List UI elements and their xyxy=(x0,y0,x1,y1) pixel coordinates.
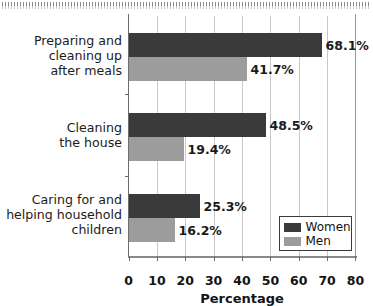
bar-women-cleaning xyxy=(129,113,267,137)
x-axis-label-50: 50 xyxy=(255,275,285,288)
x-axis-tick-60 xyxy=(299,256,300,261)
x-axis-label-30: 30 xyxy=(199,275,229,288)
legend-item-men[interactable]: Men xyxy=(284,234,347,248)
bar-label-men-meals: 41.7% xyxy=(251,64,294,77)
legend-label-women: Women xyxy=(306,221,351,233)
bar-men-cleaning xyxy=(129,137,184,161)
x-axis-tick-10 xyxy=(157,256,158,261)
decorative-dotted-rule-secondary xyxy=(2,6,371,9)
bar-label-women-meals: 68.1% xyxy=(326,40,369,53)
bar-men-children xyxy=(129,218,175,242)
category-label-children: Caring for and helping household childre… xyxy=(2,192,122,237)
x-axis-tick-20 xyxy=(185,256,186,261)
bar-women-children xyxy=(129,194,201,218)
x-axis-label-60: 60 xyxy=(284,275,314,288)
category-label-cleaning: Cleaning the house xyxy=(8,120,122,150)
category-label-meals: Preparing and cleaning up after meals xyxy=(8,33,122,78)
x-axis-tick-50 xyxy=(270,256,271,261)
bar-label-women-cleaning: 48.5% xyxy=(270,120,313,133)
x-axis-label-0: 0 xyxy=(114,275,144,288)
chart-legend[interactable]: Women Men xyxy=(279,216,352,251)
legend-label-men: Men xyxy=(306,235,331,247)
x-axis-tick-80 xyxy=(355,256,356,261)
legend-item-women[interactable]: Women xyxy=(284,220,347,234)
x-axis-title: Percentage xyxy=(129,292,356,305)
x-axis-label-80: 80 xyxy=(340,275,370,288)
legend-swatch-men-icon xyxy=(284,237,301,246)
bar-women-meals xyxy=(129,33,322,57)
x-axis-label-20: 20 xyxy=(170,275,200,288)
x-axis-label-40: 40 xyxy=(227,275,257,288)
plot-area: 68.1% 41.7% 48.5% 19.4% 25.3% 16.2% Wome… xyxy=(129,16,356,256)
bar-label-men-children: 16.2% xyxy=(179,225,222,238)
x-axis-label-10: 10 xyxy=(142,275,172,288)
bar-men-meals xyxy=(129,57,247,81)
x-axis-label-70: 70 xyxy=(312,275,342,288)
legend-swatch-women-icon xyxy=(284,223,301,232)
y-axis-tick-1 xyxy=(125,94,129,95)
y-axis-tick-2 xyxy=(125,176,129,177)
x-axis-tick-30 xyxy=(214,256,215,261)
x-axis-tick-40 xyxy=(242,256,243,261)
bar-label-women-children: 25.3% xyxy=(204,201,247,214)
x-axis-tick-0 xyxy=(129,256,130,261)
x-axis-tick-70 xyxy=(327,256,328,261)
bar-label-men-cleaning: 19.4% xyxy=(188,144,231,157)
